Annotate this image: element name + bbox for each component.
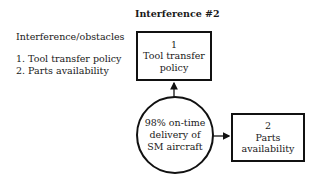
box-label-line: availability <box>242 143 295 155</box>
obstacle-box-2: 2 Parts availability <box>231 113 305 162</box>
circle-label-line: 98% on-time <box>145 117 206 129</box>
box-label-line: Parts <box>256 132 281 144</box>
circle-label-line: SM aircraft <box>147 141 202 153</box>
box-number: 1 <box>171 39 177 51</box>
box-label-line: Tool transfer <box>143 50 205 62</box>
box-number: 2 <box>265 120 271 132</box>
circle-label-line: delivery of <box>150 129 201 141</box>
goal-circle: 98% on-time delivery of SM aircraft <box>136 96 214 174</box>
obstacle-box-1: 1 Tool transfer policy <box>136 31 212 81</box>
box-label-line: policy <box>160 62 189 74</box>
